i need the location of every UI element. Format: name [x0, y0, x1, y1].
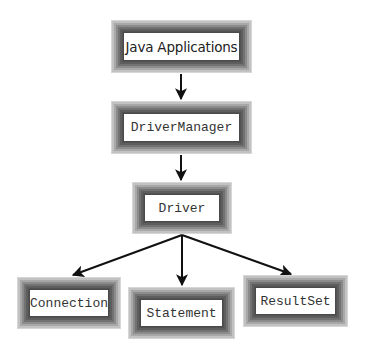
arrow-driver-to-resultset: [182, 235, 291, 274]
node-label-java-applications: Java Applications: [123, 32, 240, 61]
arrow-driver-to-connection: [73, 235, 182, 275]
node-statement: Statement: [128, 287, 235, 339]
node-java-applications: Java Applications: [111, 20, 252, 73]
node-connection: Connection: [17, 277, 121, 329]
node-label-statement: Statement: [140, 299, 223, 327]
node-label-connection: Connection: [29, 289, 109, 317]
node-label-driver-manager: DriverManager: [123, 113, 240, 142]
jdbc-architecture-diagram: Java Applications DriverManager Driver C…: [0, 0, 369, 350]
node-resultset: ResultSet: [243, 275, 348, 327]
node-driver: Driver: [132, 182, 232, 234]
node-label-driver: Driver: [144, 194, 220, 222]
node-label-resultset: ResultSet: [255, 287, 336, 315]
node-driver-manager: DriverManager: [111, 101, 252, 154]
